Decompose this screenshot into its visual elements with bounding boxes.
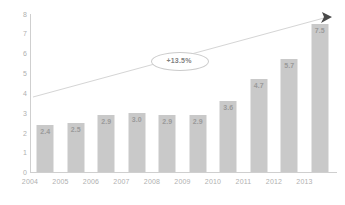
x-axis-tick-labels: 2004 2005 2006 2007 2008 2009 2010 2011 … — [0, 0, 345, 205]
bar-chart: 8 7 6 5 4 3 2 1 0 2.4 2.5 2.9 3.0 — [0, 0, 345, 205]
x-axis-tick-2009: 2009 — [166, 178, 200, 186]
x-axis-tick-2004: 2004 — [13, 178, 47, 186]
x-axis-tick-2005: 2005 — [44, 178, 78, 186]
x-axis-tick-2010: 2010 — [196, 178, 230, 186]
growth-callout: +13.5% — [151, 52, 209, 71]
growth-callout-label: +13.5% — [151, 52, 207, 69]
x-axis-tick-2013: 2013 — [288, 178, 322, 186]
x-axis-tick-2008: 2008 — [135, 178, 169, 186]
x-axis-tick-2007: 2007 — [105, 178, 139, 186]
x-axis-tick-2011: 2011 — [227, 178, 261, 186]
x-axis-tick-2006: 2006 — [74, 178, 108, 186]
x-axis-tick-2012: 2012 — [257, 178, 291, 186]
